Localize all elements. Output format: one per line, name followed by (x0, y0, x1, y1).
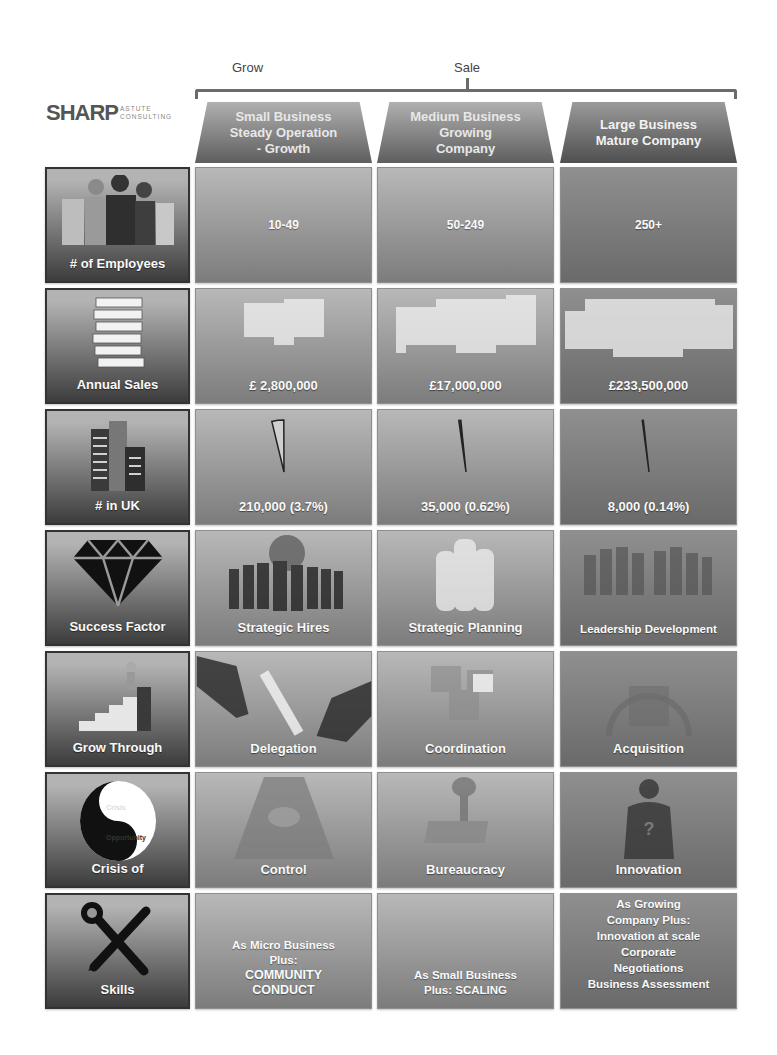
cell-text: As Micro Business Plus: COMMUNITY CONDUC… (200, 938, 367, 998)
row-header-grow-through: Grow Through (45, 651, 190, 767)
success-small: Strategic Hires (195, 530, 372, 646)
column-header-medium: Medium BusinessGrowingCompany (377, 102, 554, 163)
employees-small: 10-49 (195, 167, 372, 283)
row-header-crisis-of: Crisis Opportunity Crisis of (45, 772, 190, 888)
banknotes-icon (88, 296, 148, 368)
blueprint-rolls-icon (426, 535, 506, 615)
skills-large: As Growing Company Plus: Innovation at s… (560, 893, 737, 1009)
uk-medium: 35,000 (0.62%) (377, 409, 554, 525)
sales-small: £ 2,800,000 (195, 288, 372, 404)
success-large: Leadership Development (560, 530, 737, 646)
sale-label: Sale (454, 60, 480, 75)
row-header-label: Annual Sales (47, 377, 188, 392)
column-header-small: Small BusinessSteady Operation- Growth (195, 102, 372, 163)
skills-medium: As Small Business Plus: SCALING (377, 893, 554, 1009)
banknotes-pile-icon (224, 293, 344, 353)
yin-yang-text-opportunity: Opportunity (105, 834, 145, 842)
banknotes-pile-icon (563, 293, 735, 361)
yin-yang-text-crisis: Crisis (106, 804, 126, 811)
row-header-label: Skills (47, 982, 188, 997)
business-team-globe-icon (209, 535, 359, 615)
row-header-annual-sales: Annual Sales (45, 288, 190, 404)
uk-large: 8,000 (0.14%) (560, 409, 737, 525)
row-header-in-uk: # in UK (45, 409, 190, 525)
sales-large: £233,500,000 (560, 288, 737, 404)
share-wedge-slice (642, 420, 649, 472)
skills-small: As Micro Business Plus: COMMUNITY CONDUC… (195, 893, 372, 1009)
diamond-icon (73, 538, 163, 606)
grow-large: Acquisition (560, 651, 737, 767)
grow-label: Grow (232, 60, 263, 75)
row-header-label: Crisis of (47, 861, 188, 876)
row-header-success-factor: Success Factor (45, 530, 190, 646)
employees-large: 250+ (560, 167, 737, 283)
share-wedge (196, 410, 373, 490)
svg-text:?: ? (643, 819, 654, 839)
puzzle-pieces-icon (421, 656, 511, 736)
question-silhouette-icon: ? (614, 777, 684, 859)
row-header-label: Grow Through (47, 740, 188, 755)
handshake-baton-icon (196, 656, 371, 742)
people-icon (58, 175, 178, 245)
yin-yang-icon: Crisis Opportunity (78, 780, 158, 862)
cell-text: As Growing Company Plus: Innovation at s… (565, 896, 732, 992)
share-wedge (561, 410, 738, 490)
row-header-label: Success Factor (47, 619, 188, 634)
success-medium: Strategic Planning (377, 530, 554, 646)
row-header-label: # of Employees (47, 256, 188, 271)
tools-icon (78, 901, 158, 981)
banknotes-pile-icon (386, 293, 546, 359)
column-header-large: Large BusinessMature Company (560, 102, 737, 163)
share-wedge (378, 410, 555, 490)
grow-medium: Coordination (377, 651, 554, 767)
crisis-medium: Bureaucracy (377, 772, 554, 888)
row-header-employees: # of Employees (45, 167, 190, 283)
logo-subtext: ASTUTE CONSULTING (120, 105, 172, 121)
sales-medium: £17,000,000 (377, 288, 554, 404)
employees-medium: 50-249 (377, 167, 554, 283)
crisis-large: ? Innovation (560, 772, 737, 888)
grow-small: Delegation (195, 651, 372, 767)
cell-text: As Small Business Plus: SCALING (382, 968, 549, 998)
row-header-skills: Skills (45, 893, 190, 1009)
remote-control-icon (234, 777, 334, 859)
cell-text: Leadership Development (565, 622, 732, 637)
uk-small: 210,000 (3.7%) (195, 409, 372, 525)
crowd-silhouette-icon (574, 535, 724, 595)
columns-bracket (195, 89, 737, 99)
row-header-label: # in UK (47, 498, 188, 513)
crisis-small: Control (195, 772, 372, 888)
acquisition-circle-icon (599, 656, 699, 738)
share-wedge-slice (272, 420, 284, 472)
stairs-climber-icon (73, 659, 163, 735)
rubber-stamp-icon (416, 777, 516, 859)
logo: SHARP ASTUTE CONSULTING (46, 100, 172, 126)
logo-text: SHARP (46, 100, 118, 126)
buildings-icon (83, 417, 153, 493)
share-wedge-slice (459, 420, 466, 472)
